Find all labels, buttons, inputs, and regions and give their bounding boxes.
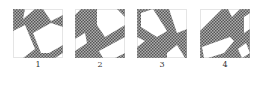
panel-4: [200, 9, 250, 58]
panel-2: [75, 9, 125, 58]
panel-label-2: 2: [75, 60, 125, 69]
panel-label-1: 1: [13, 60, 63, 69]
panel-3: [137, 9, 187, 58]
panel-1: [13, 9, 63, 58]
band-pattern-3: [137, 9, 187, 58]
band-pattern-4: [200, 9, 250, 58]
band-pattern-1: [13, 9, 63, 58]
panel-label-3: 3: [137, 60, 187, 69]
band-pattern-2: [75, 9, 125, 58]
panel-label-4: 4: [200, 60, 250, 69]
